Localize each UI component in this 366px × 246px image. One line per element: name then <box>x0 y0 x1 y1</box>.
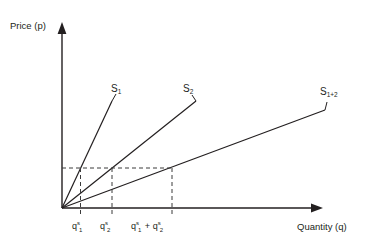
price-axis <box>58 22 67 208</box>
curve-label-s1-base: S <box>111 83 118 94</box>
quantity-axis <box>62 204 323 213</box>
diagram-canvas <box>0 0 366 246</box>
tick-label-q1: qs1 <box>72 222 83 231</box>
price-axis-title: Price (p) <box>10 21 46 31</box>
curve-label-s1plus2-subscript: 1+2 <box>327 91 338 98</box>
leader-s1 <box>112 94 116 101</box>
tick-label-qsum-subscript1: 1 <box>138 227 141 233</box>
tick-label-q1-subscript: 1 <box>79 227 82 233</box>
tick-label-qsum-superscript1: s <box>136 220 139 226</box>
curve-label-s2: S2 <box>183 84 193 94</box>
curve-label-s1-subscript: 1 <box>118 88 122 95</box>
curve-label-s2-base: S <box>183 83 190 94</box>
curve-s2 <box>62 101 196 208</box>
tick-label-q2: qs2 <box>100 222 111 231</box>
tick-label-qsum-operator: + <box>142 221 152 231</box>
supply-curve-diagram: Price (p) Quantity (q) S1 S2 S1+2 qs1 qs… <box>0 0 366 246</box>
curve-label-s1plus2-base: S <box>320 86 327 97</box>
leader-s2 <box>192 95 196 101</box>
curve-label-s1: S1 <box>111 84 121 94</box>
tick-label-q1-superscript: s <box>77 220 80 226</box>
leader-s1plus2 <box>325 102 327 110</box>
quantity-axis-title: Quantity (q) <box>297 222 347 232</box>
tick-label-qsum-superscript2: s <box>158 220 161 226</box>
tick-label-q2-subscript: 2 <box>107 227 110 233</box>
tick-label-qsum: qs1 + qs2 <box>131 222 164 231</box>
curve-label-s2-subscript: 2 <box>190 88 194 95</box>
tick-label-qsum-subscript2: 2 <box>160 227 163 233</box>
tick-label-qsum-base2: q <box>153 221 158 231</box>
tick-label-q2-superscript: s <box>105 220 108 226</box>
curve-label-s1plus2: S1+2 <box>320 87 338 97</box>
